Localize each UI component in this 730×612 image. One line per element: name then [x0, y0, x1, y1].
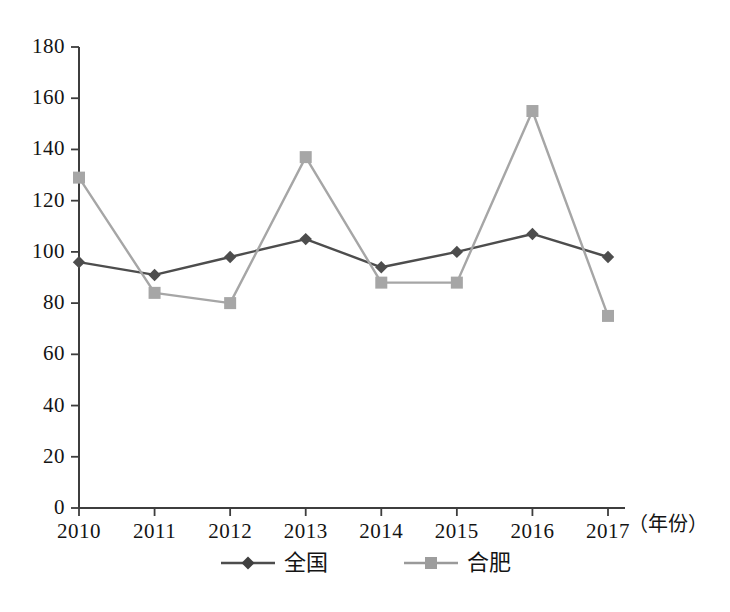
x-axis-tick-label: 2014 [341, 521, 421, 542]
series-line [79, 234, 608, 275]
legend-item-hefei[interactable]: 合肥 [402, 552, 511, 574]
series-line [79, 111, 608, 316]
data-point-marker [300, 233, 312, 245]
legend-item-national[interactable]: 全国 [219, 552, 328, 574]
data-series-group [73, 105, 614, 322]
data-point-marker [148, 269, 160, 281]
data-point-marker [224, 251, 236, 263]
series-national [73, 228, 614, 281]
y-axis-tick-label: 20 [43, 446, 65, 467]
x-axis-tick-label: 2016 [492, 521, 572, 542]
axes [71, 47, 625, 516]
y-axis-tick-label: 40 [43, 395, 65, 416]
data-point-marker [375, 261, 387, 273]
data-point-marker [300, 151, 312, 163]
x-axis-tick-label: 2010 [39, 521, 119, 542]
y-axis-ticks [71, 47, 79, 508]
data-point-marker [526, 228, 538, 240]
y-axis-tick-label: 80 [43, 292, 65, 313]
x-axis-tick-label: 2013 [266, 521, 346, 542]
data-point-marker [602, 251, 614, 263]
x-axis-unit-label: （年份） [628, 514, 708, 535]
data-point-marker [73, 172, 85, 184]
x-axis-ticks [79, 508, 608, 516]
x-axis-tick-label: 2012 [190, 521, 270, 542]
x-axis-tick-label: 2015 [417, 521, 497, 542]
legend-label-national: 全国 [284, 552, 328, 574]
y-axis-tick-label: 0 [54, 497, 65, 518]
data-point-marker [375, 277, 387, 289]
data-point-marker [451, 277, 463, 289]
legend-label-hefei: 合肥 [467, 552, 511, 574]
chart-legend: 全国 合肥 [0, 552, 730, 574]
x-axis-tick-label: 2011 [115, 521, 195, 542]
data-point-marker [602, 310, 614, 322]
y-axis-tick-label: 180 [32, 36, 65, 57]
data-point-marker [526, 105, 538, 117]
data-point-marker [224, 297, 236, 309]
line-chart: 020406080100120140160180 201020112012201… [0, 0, 730, 612]
legend-swatch-square-icon [402, 553, 460, 573]
y-axis-tick-label: 140 [32, 138, 65, 159]
y-axis-tick-label: 60 [43, 343, 65, 364]
series-hefei [73, 105, 614, 322]
y-axis-tick-label: 120 [32, 190, 65, 211]
legend-swatch-diamond-icon [219, 553, 277, 573]
data-point-marker [73, 256, 85, 268]
data-point-marker [149, 287, 161, 299]
y-axis-tick-label: 100 [32, 241, 65, 262]
data-point-marker [451, 246, 463, 258]
y-axis-tick-label: 160 [32, 87, 65, 108]
